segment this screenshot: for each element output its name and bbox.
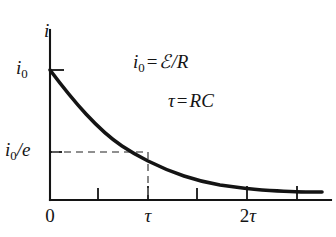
slash-r: /R [171, 51, 188, 72]
x-tick-label-two-tau: 2τ [240, 206, 256, 225]
y-axis-label: i [44, 21, 49, 40]
rc-decay-figure: i i0 i0/e i0=ℰ/R τ=RC 0 τ 2τ [0, 0, 336, 237]
x-tick-label-tau: τ [145, 206, 152, 225]
equation-i0-subscript: 0 [138, 60, 144, 75]
i0-over-e-suffix: /e [17, 139, 31, 160]
script-emf-symbol: ℰ [159, 50, 171, 72]
tau-symbol: τ [168, 90, 175, 111]
equals-sign: = [175, 90, 190, 111]
y-tick-label-i0-over-e: i0/e [5, 140, 30, 163]
y-axis-ticks [50, 70, 64, 152]
guide-lines [52, 152, 148, 198]
two-tau-symbol: τ [249, 205, 256, 226]
equals-sign: = [145, 51, 160, 72]
plot-canvas [0, 0, 336, 237]
decay-curve [50, 70, 322, 192]
rc-product: RC [190, 90, 214, 111]
x-tick-label-zero: 0 [45, 206, 55, 225]
equation-tau: τ=RC [168, 91, 214, 110]
equation-i0: i0=ℰ/R [133, 52, 188, 75]
y-tick-label-i0: i0 [16, 58, 28, 81]
i0-subscript: 0 [21, 66, 27, 81]
